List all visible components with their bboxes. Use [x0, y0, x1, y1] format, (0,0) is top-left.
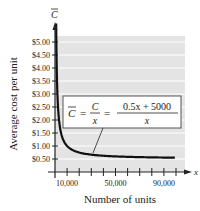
y-tick-label: $1.50 [32, 129, 50, 138]
y-axis-ticks: $5.00$4.50$4.00$3.50$3.00$2.50$2.00$1.50… [32, 38, 58, 164]
y-tick-label: $3.50 [32, 77, 50, 86]
x-axis-symbol: x [193, 167, 198, 177]
y-axis-symbol: C [51, 9, 58, 20]
y-tick-label: $4.00 [32, 64, 50, 73]
svg-text:0.5x + 5000: 0.5x + 5000 [123, 101, 171, 112]
svg-text:x: x [144, 115, 150, 126]
x-axis-label: Number of units [84, 193, 156, 205]
y-tick-label: $2.00 [32, 116, 50, 125]
x-tick-label: 50,000 [105, 179, 127, 188]
svg-text:=: = [104, 107, 110, 119]
y-axis-label: Average cost per unit [7, 57, 19, 151]
chart: $5.00$4.50$4.00$3.50$3.00$2.50$2.00$1.50… [0, 0, 200, 211]
svg-text:C: C [68, 107, 76, 119]
y-tick-label: $3.00 [32, 90, 50, 99]
x-tick-label: 10,000 [56, 179, 78, 188]
svg-text:x: x [92, 115, 98, 126]
x-tick-label: 90,000 [153, 179, 175, 188]
svg-text:C: C [92, 101, 99, 112]
svg-text:=: = [80, 107, 86, 119]
y-tick-label: $1.00 [32, 142, 50, 151]
y-tick-label: $5.00 [32, 38, 50, 47]
y-tick-label: $2.50 [32, 103, 50, 112]
x-axis-arrow-icon [184, 170, 192, 175]
y-tick-label: $4.50 [32, 51, 50, 60]
y-tick-label: $0.50 [32, 155, 50, 164]
